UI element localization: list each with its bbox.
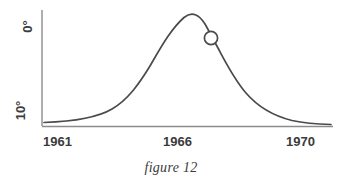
y-axis-tick-label-top: 0° [20,10,35,44]
figure-container: 0° 10° 1961 1966 1970 figure 12 [0,0,342,187]
data-curve [44,14,331,124]
x-axis-tick-label-1961: 1961 [43,134,72,149]
open-circle-marker[interactable] [204,31,217,44]
line-chart-plot [0,0,342,187]
figure-caption: figure 12 [0,160,342,176]
x-axis-tick-label-1970: 1970 [286,134,315,149]
x-axis-tick-label-1966: 1966 [163,134,192,149]
y-axis-tick-label-bottom: 10° [13,94,28,128]
